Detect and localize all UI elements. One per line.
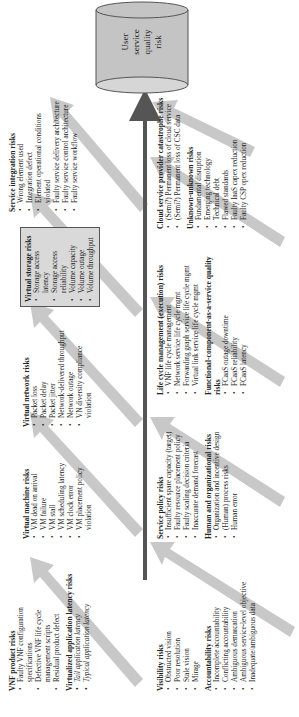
risk-item: Element operational conditions violated — [35, 97, 53, 212]
target-line: service — [131, 12, 142, 72]
risk-item: Storage access reliability — [51, 232, 69, 302]
risk-item: Faulty scaling decision criteria — [183, 409, 192, 539]
visibility-accountability-risks: Visibility risks Obstructed vision Poor … — [156, 566, 261, 691]
service-integration-risks: Service integration risks Wrong element … — [8, 97, 83, 212]
risk-item: Faulty CSP opex reduction — [240, 94, 249, 229]
risk-item: Forwarding graph service life cycle mgmt — [183, 245, 192, 395]
risk-item: Obstructed vision — [165, 566, 174, 691]
group-title: Service integration risks — [8, 97, 17, 212]
target-line: quality — [142, 12, 153, 72]
risk-item: Packet delay — [40, 322, 49, 427]
risk-item: Faulty service control architecture — [62, 97, 71, 212]
risk-item: Faulty service workflow — [71, 97, 80, 212]
target-line: risk — [153, 12, 164, 72]
target-line: User — [120, 12, 131, 72]
risk-item: FCaaS latency — [240, 245, 249, 395]
risk-item: Integration defect — [26, 97, 35, 212]
risk-item: Wrong element used — [17, 97, 26, 212]
risk-item: Packet loss — [31, 322, 40, 427]
risk-item: Faulty service delivery architecture — [53, 97, 62, 212]
risk-item: (Semi?) Permanent loss of CSC data — [174, 94, 183, 229]
risk-item: Fundamental disruption — [195, 94, 204, 229]
virtual-storage-risks: Virtual storage risks Storage access lat… — [20, 227, 100, 307]
risk-item: FCaaS reliability — [231, 245, 240, 395]
risk-item: Stale vision — [183, 566, 192, 691]
risk-item: Network outage — [67, 322, 76, 427]
virtual-machine-risks: Virtual machine risks VM dead on arrival… — [22, 443, 97, 539]
risk-diagram: User service quality risk VNF product ri… — [0, 0, 299, 717]
risk-item: VN diversity compliance violation — [76, 322, 94, 427]
risk-item: Insufficient spare capacity (target) — [165, 409, 174, 539]
group-title: VNF product risks — [8, 573, 17, 691]
group-title: Accountability risks — [204, 566, 213, 691]
risk-item: Human error — [231, 409, 240, 539]
risk-item: Inadequate/ambiguous data — [249, 566, 258, 691]
lifecycle-fcaas-risks: Life cycle management (execution) risks … — [156, 245, 252, 395]
group-title: Cloud service provider catastrophe risks — [156, 94, 165, 229]
group-title: Virtual storage risks — [24, 232, 33, 302]
risk-item: Incomplete accountability — [213, 566, 222, 691]
risk-item: Technical debt — [213, 94, 222, 229]
risk-item: Faulty IaaS capex reduction — [231, 94, 240, 229]
risk-item: VM failure — [40, 443, 49, 539]
csp-unknown-risks: Cloud service provider catastrophe risks… — [156, 94, 252, 229]
risk-item: (Human) process risks — [222, 409, 231, 539]
risk-item: Storage access latency — [33, 232, 51, 302]
group-title: Functional-component-as-a-service qualit… — [204, 245, 222, 395]
risk-item: Typical application latency — [83, 573, 92, 691]
risk-item: Ambiguous demarcation — [231, 566, 240, 691]
group-title: Service policy risks — [156, 409, 165, 539]
vnf-product-risks: VNF product risks Faulty VNF configurati… — [8, 573, 95, 691]
risk-item: Inaccurate demand forecast — [192, 409, 201, 539]
risk-item: Conflicting accountability — [222, 566, 231, 691]
virtual-network-risks: Virtual network risks Packet loss Packet… — [22, 322, 97, 427]
risk-item: (Semi?) Permanent loss of cloud service — [165, 94, 174, 229]
risk-item: Network service life cycle mgmt — [174, 245, 183, 395]
risk-item: Packet jitter — [49, 322, 58, 427]
risk-item: FCaaS outage downtime — [222, 245, 231, 395]
risk-item: Faulty VNF configuration specifications — [17, 573, 35, 691]
risk-item: VM scheduling latency — [58, 443, 67, 539]
risk-item: Emerging technology — [204, 94, 213, 229]
risk-item: VM dead on arrival — [31, 443, 40, 539]
group-title: Virtualized application latency risks — [65, 573, 74, 691]
group-title: Life cycle management (execution) risks — [156, 245, 165, 395]
group-title: Virtual machine risks — [22, 443, 31, 539]
group-title: Unknown-unknown risks — [186, 94, 195, 229]
risk-item: Organization and incentive design — [213, 409, 222, 539]
risk-item: Tail application latency — [74, 573, 83, 691]
risk-item: Volume throughput — [87, 232, 96, 302]
service-policy-human-risks: Service policy risks Insufficient spare … — [156, 409, 243, 539]
risk-item: Poor resolution — [174, 566, 183, 691]
risk-item: Network-delivered throughput — [58, 322, 67, 427]
group-title: Visibility risks — [156, 566, 165, 691]
target-label: User service quality risk — [120, 12, 164, 72]
risk-item: Volume outage — [78, 232, 87, 302]
group-title: Human and organizational risks — [204, 409, 213, 539]
risk-item: Defective VNF life cycle management scri… — [35, 573, 53, 691]
risk-item: VM placement policy violation — [76, 443, 94, 539]
group-title: Virtual network risks — [22, 322, 31, 427]
risk-item: VM clock error — [67, 443, 76, 539]
risk-item: Mirage — [192, 566, 201, 691]
risk-item: Ambiguous service-level objective — [240, 566, 249, 691]
risk-item: VNF life cycle management — [165, 245, 174, 395]
risk-item: Faulty resource placement policy — [174, 409, 183, 539]
risk-item: VM stall — [49, 443, 58, 539]
risk-item: Virtual link service life cycle mgmt — [192, 245, 201, 395]
risk-item: Volume capacity — [69, 232, 78, 302]
risk-item: Flawed standards — [222, 94, 231, 229]
risk-item: Residual product defect — [53, 573, 62, 691]
